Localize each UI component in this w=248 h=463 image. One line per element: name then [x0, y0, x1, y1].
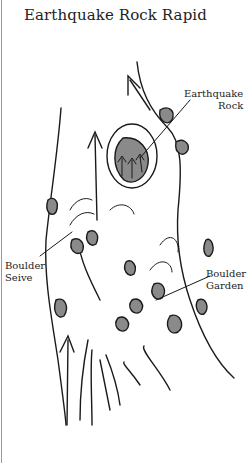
- label-boulder-garden: Boulder Garden: [206, 268, 246, 292]
- label-line: Seive: [5, 272, 45, 284]
- rapid-diagram: [0, 0, 248, 463]
- label-line: Boulder: [5, 260, 45, 272]
- label-line: Earthquake: [184, 88, 243, 100]
- label-line: Rock: [184, 100, 243, 112]
- label-earthquake-rock: Earthquake Rock: [184, 88, 243, 112]
- label-line: Garden: [206, 280, 246, 292]
- label-line: Boulder: [206, 268, 246, 280]
- left-bank: [46, 108, 66, 425]
- label-boulder-seive: Boulder Seive: [5, 260, 45, 284]
